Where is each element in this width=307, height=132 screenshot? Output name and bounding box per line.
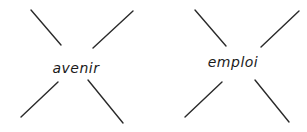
center-word-emploi: emploi <box>208 54 258 70</box>
line-top-left <box>195 10 226 46</box>
line-bottom-right <box>88 80 123 123</box>
line-bottom-left <box>185 82 222 117</box>
line-top-right <box>261 11 299 47</box>
center-word-avenir: avenir <box>53 60 100 76</box>
line-bottom-left <box>21 82 58 117</box>
line-bottom-right <box>255 80 289 122</box>
connector-lines <box>0 0 307 132</box>
diagram-canvas: avenir emploi <box>0 0 307 132</box>
line-top-right <box>93 11 133 48</box>
line-top-left <box>31 10 61 45</box>
